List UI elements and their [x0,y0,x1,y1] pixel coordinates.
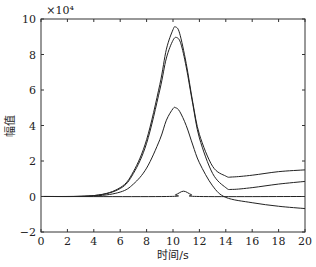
tick-label: 6 [29,84,36,97]
axis-ticks [41,19,305,232]
line-chart: 02468101214161820−20246810 ×10⁴ 时间/s 幅值 [0,0,316,267]
tick-label: 8 [29,49,36,62]
y-axis-label: 幅值 [4,115,17,137]
series-line-3 [41,107,305,208]
tick-label: 6 [117,235,124,248]
tick-label: 16 [245,235,259,248]
tick-label: 14 [219,235,233,248]
tick-label: 4 [29,120,36,133]
tick-label: 12 [192,235,206,248]
series-line-1 [41,27,305,197]
tick-label: 10 [166,235,180,248]
plot-frame [41,19,305,232]
series-line-2 [41,37,305,196]
tick-labels: 02468101214161820−20246810 [20,13,312,248]
tick-label: 2 [64,235,71,248]
tick-label: 18 [272,235,286,248]
tick-label: 8 [143,235,150,248]
x-axis-label: 时间/s [157,249,189,262]
tick-label: 10 [22,13,36,26]
plot-lines [41,27,305,209]
tick-label: 2 [29,155,36,168]
tick-label: 4 [90,235,97,248]
y-multiplier: ×10⁴ [46,4,74,17]
tick-label: 20 [298,235,312,248]
tick-label: 0 [29,191,36,204]
tick-label: −2 [20,226,36,239]
tick-label: 0 [38,235,45,248]
